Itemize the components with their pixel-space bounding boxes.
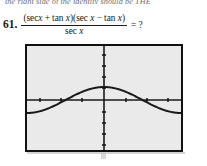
numerator-minus-op: − (94, 13, 104, 23)
numerator-text-5: ) (122, 13, 125, 23)
fraction-denominator: sec x (63, 26, 85, 37)
fraction: (secx+tan x)(sec x−tan x) sec x (21, 14, 127, 37)
numerator-text-1: (sec (23, 13, 38, 23)
numerator-text-2: tan (52, 13, 63, 23)
cutoff-header-text: the right side of the identity should be… (5, 0, 205, 4)
numerator-plus-op: + (42, 13, 52, 23)
page-artifact-mark (101, 153, 106, 159)
cosine-wave-plot (27, 46, 181, 150)
problem-line: 61. (secx+tan x)(sec x−tan x) sec x = ? (3, 12, 143, 38)
denominator-text: sec (65, 26, 77, 36)
fraction-numerator: (secx+tan x)(sec x−tan x) (21, 14, 127, 25)
page-root: the right side of the identity should be… (0, 0, 207, 166)
equals-question-mark: = ? (131, 20, 143, 30)
calculator-screen-inner (27, 46, 181, 150)
numerator-text-3: )(sec (70, 13, 88, 23)
numerator-text-4: tan (104, 13, 115, 23)
calculator-drop-shadow (27, 152, 185, 154)
problem-number: 61. (3, 19, 17, 31)
graphing-calculator-screen (25, 44, 183, 152)
denominator-var: x (79, 26, 83, 36)
